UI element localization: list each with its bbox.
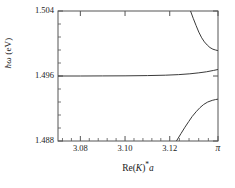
x-tick-label: π <box>196 143 235 153</box>
curve-middle-branch <box>58 70 218 77</box>
x-tick-label: 3.10 <box>103 143 147 153</box>
x-tick-label: 3.08 <box>58 143 102 153</box>
band-structure-figure: ħω (eV) 1.4881.4961.504 Re(K)*a 3.083.10… <box>0 0 235 188</box>
curve-lower-branch <box>176 99 218 141</box>
curve-upper-branch <box>191 11 218 51</box>
plot-canvas <box>0 0 235 188</box>
dispersion-curves <box>58 11 218 141</box>
x-tick-label: 3.12 <box>148 143 192 153</box>
